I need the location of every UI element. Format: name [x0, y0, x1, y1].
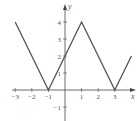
x-tick-label: −2 [28, 93, 36, 101]
y-tick-label: −1 [54, 104, 62, 112]
y-axis-arrow-icon [63, 4, 67, 10]
x-tick-label: 2 [96, 93, 100, 101]
x-tick-label: 1 [80, 93, 84, 101]
y-tick-label: 4 [58, 19, 62, 27]
y-tick-label: 3 [58, 36, 62, 44]
x-tick-label: −1 [45, 93, 53, 101]
function-graph: −3−2−1123−11234 x y [0, 0, 137, 121]
function-curve [15, 22, 131, 90]
tick-labels: −3−2−1123−11234 [11, 19, 117, 112]
x-axis-label: x [130, 92, 135, 101]
x-tick-label: −3 [11, 93, 19, 101]
y-tick-label: 2 [58, 53, 62, 61]
y-axis-label: y [67, 2, 72, 11]
axes [12, 4, 136, 121]
x-tick-label: 3 [113, 93, 117, 101]
